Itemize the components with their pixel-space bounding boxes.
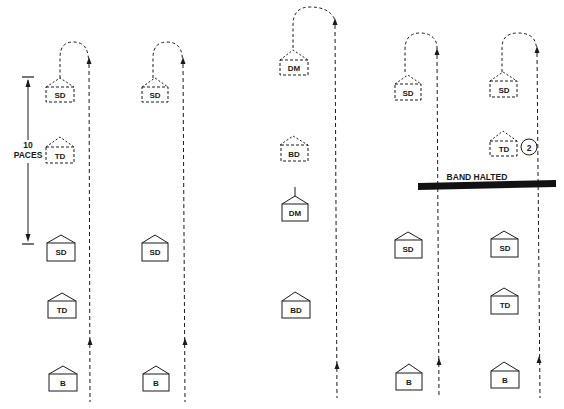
marker-dm: DM <box>282 187 308 221</box>
marker-b: B <box>491 362 519 388</box>
marker-sd: SD <box>395 232 422 258</box>
marker-sd: SD <box>47 235 75 261</box>
svg-text:SD: SD <box>55 248 66 257</box>
column-3: DM BD DM BD <box>280 7 340 398</box>
marker-td: TD <box>48 293 76 318</box>
svg-text:SD: SD <box>402 245 413 254</box>
ghost-marker-sd: SD <box>395 75 421 100</box>
ghost-marker-td: TD <box>490 131 517 156</box>
column-5: SD TD 2 SD TD B <box>490 33 542 398</box>
band-halted-label: BAND HALTED <box>447 172 508 182</box>
column-4: SD SD B <box>395 33 442 398</box>
svg-text:SD: SD <box>402 89 413 98</box>
svg-text:2: 2 <box>527 143 532 153</box>
svg-text:TD: TD <box>500 301 511 310</box>
column-2: SD SD B <box>142 42 188 402</box>
svg-text:SD: SD <box>499 244 510 253</box>
marker-b: B <box>396 364 422 390</box>
svg-text:SD: SD <box>149 248 160 257</box>
marker-sd: SD <box>491 231 518 257</box>
column-1: SD TD SD TD B <box>46 42 93 402</box>
marker-b: B <box>49 366 77 391</box>
circle-number-marker: 2 <box>521 139 537 155</box>
svg-text:TD: TD <box>57 306 68 315</box>
svg-text:B: B <box>502 376 508 385</box>
svg-text:B: B <box>406 378 412 387</box>
svg-text:SD: SD <box>498 86 509 95</box>
marker-sd: SD <box>142 235 168 261</box>
svg-text:SD: SD <box>149 91 160 100</box>
ghost-marker-td: TD <box>46 137 74 163</box>
svg-text:B: B <box>60 379 66 388</box>
ghost-marker-bd: BD <box>280 136 308 161</box>
ghost-marker-sd: SD <box>46 78 74 102</box>
svg-text:SD: SD <box>54 91 65 100</box>
marker-bd: BD <box>282 292 310 318</box>
svg-text:DM: DM <box>289 209 302 218</box>
svg-text:DM: DM <box>288 64 301 73</box>
arrow-down-icon <box>537 356 542 363</box>
svg-text:BD: BD <box>288 150 300 159</box>
arrow-down-icon <box>183 338 188 345</box>
ghost-marker-dm: DM <box>280 50 308 75</box>
ghost-marker-sd: SD <box>142 78 168 102</box>
ten-paces-measure: 10 PACES <box>14 77 43 244</box>
svg-text:TD: TD <box>499 145 510 154</box>
svg-text:B: B <box>153 379 159 388</box>
measure-unit: PACES <box>14 150 43 160</box>
svg-text:BD: BD <box>290 306 302 315</box>
arrow-down-icon <box>335 362 340 369</box>
formation-diagram: 10 PACES SD TD SD TD <box>0 0 564 409</box>
measure-number: 10 <box>23 140 33 150</box>
ghost-marker-sd: SD <box>490 72 517 97</box>
arrow-down-icon <box>88 338 93 345</box>
svg-text:TD: TD <box>55 152 66 161</box>
band-halted-line: BAND HALTED <box>418 172 556 190</box>
arrow-down-icon <box>437 358 442 365</box>
marker-b: B <box>143 366 169 391</box>
marker-td: TD <box>491 288 518 314</box>
